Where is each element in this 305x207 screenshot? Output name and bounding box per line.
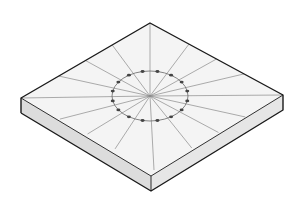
ring-dot <box>127 74 131 77</box>
ring-dot <box>116 81 120 84</box>
ring-dot <box>169 115 173 118</box>
ring-dot <box>127 115 131 118</box>
ring-dot <box>155 70 159 73</box>
ring-dot <box>180 108 184 111</box>
slab-drawing <box>0 0 305 207</box>
ring-dot <box>111 90 115 93</box>
ring-dot <box>141 70 145 73</box>
ring-dot <box>185 90 189 93</box>
ring-dot <box>116 108 120 111</box>
ring-dot <box>180 81 184 84</box>
slab-illustration <box>0 0 305 207</box>
ring-dot <box>111 99 115 102</box>
ring-dot <box>169 74 173 77</box>
ring-dot <box>185 99 189 102</box>
ring-dot <box>155 119 159 122</box>
slab-top-face <box>21 23 283 176</box>
ring-dot <box>141 119 145 122</box>
